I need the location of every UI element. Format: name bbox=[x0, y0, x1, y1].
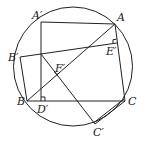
segment-B-prime-E-prime bbox=[20, 43, 117, 57]
label-C: C bbox=[128, 95, 137, 108]
label-E-prime: E′ bbox=[105, 45, 117, 58]
geometry-diagram: A′ A B′ E′ F′ B D′ C C′ bbox=[0, 0, 145, 147]
label-C-prime: C′ bbox=[93, 126, 104, 139]
right-angle-D-prime bbox=[41, 97, 45, 101]
label-B-prime: B′ bbox=[7, 51, 19, 64]
label-F-prime: F′ bbox=[54, 62, 66, 75]
segment-A-prime-A bbox=[41, 22, 115, 24]
label-A: A bbox=[116, 11, 125, 24]
label-B: B bbox=[16, 95, 25, 108]
segment-B-A bbox=[27, 24, 115, 101]
segment-C-C-prime bbox=[95, 101, 125, 124]
segment-C-C-prime-2 bbox=[94, 99, 124, 123]
label-D-prime: D′ bbox=[36, 103, 49, 116]
label-A-prime: A′ bbox=[31, 9, 43, 22]
